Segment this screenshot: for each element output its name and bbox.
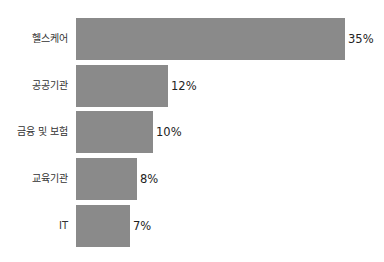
category-label: 공공기관 bbox=[32, 65, 68, 107]
value-label: 12% bbox=[171, 65, 197, 107]
bar-row: 금융 및 보험10% bbox=[0, 111, 384, 153]
horizontal-bar-chart: 헬스케어35%공공기관12%금융 및 보험10%교육기관8%IT7% bbox=[0, 0, 384, 262]
bar bbox=[76, 158, 137, 200]
value-label: 7% bbox=[133, 205, 151, 247]
bar bbox=[76, 18, 345, 60]
category-label: 교육기관 bbox=[32, 158, 68, 200]
category-label: 금융 및 보험 bbox=[17, 111, 68, 153]
category-label: 헬스케어 bbox=[32, 18, 68, 60]
value-label: 10% bbox=[156, 111, 182, 153]
bar bbox=[76, 111, 153, 153]
bar-row: 공공기관12% bbox=[0, 65, 384, 107]
bar-row: 교육기관8% bbox=[0, 158, 384, 200]
bar bbox=[76, 205, 130, 247]
bar-row: IT7% bbox=[0, 205, 384, 247]
value-label: 8% bbox=[140, 158, 158, 200]
value-label: 35% bbox=[348, 18, 374, 60]
bar-row: 헬스케어35% bbox=[0, 18, 384, 60]
bar bbox=[76, 65, 168, 107]
category-label: IT bbox=[59, 205, 68, 247]
